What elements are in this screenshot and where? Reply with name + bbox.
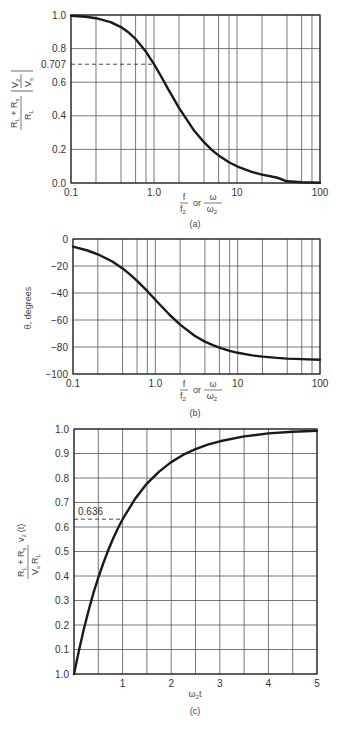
y-tick-label: 0 [62,234,68,245]
chart-c-grid [74,429,317,674]
svg-text:f2: f2 [180,391,187,402]
x-tick-label: 1.0 [148,378,162,389]
x-tick-label: 100 [312,378,329,389]
x-tick-label: 4 [266,678,272,689]
svg-text:or: or [193,198,201,208]
y-tick-label: −40 [51,288,68,299]
x-tick-label: 1 [120,678,126,689]
y-tick-label: 0.3 [55,595,69,606]
x-tick-label: 1.0 [147,187,161,198]
y-tick-label: 0.4 [55,571,69,582]
y-tick-label: −60 [51,315,68,326]
y-tick-label: 0.9 [55,448,69,459]
y-tick-label: 0.6 [52,77,66,88]
x-tick-label: 5 [314,678,320,689]
chart-b-y-ticks: 0−20−40−60−80−100 [45,234,68,380]
y-tick-label: 1.0 [52,10,66,21]
svg-text:ω: ω [209,379,216,389]
svg-text:RL + Rs: RL + Rs [16,547,27,577]
chart-a-x-ticks: 0.11.010100 [64,187,329,198]
x-tick-label: 0.1 [66,378,80,389]
svg-text:RL + Rs: RL + Rs [9,98,20,128]
svg-text:Vs: Vs [23,78,34,87]
chart-a-x-axis-label: f f2 or ω ω2 [180,192,222,215]
y-tick-label: 0.5 [55,546,69,557]
chart-b-x-axis-label: f f2 or ω ω2 [180,379,222,402]
y-tick-label: 0.707 [41,59,66,70]
chart-c-x-ticks: 12345 [120,678,320,689]
svg-text:f: f [183,379,186,389]
svg-text:f2: f2 [180,204,187,215]
chart-b-y-axis-label: θ, degrees [23,286,33,329]
chart-c-y-axis-label: RL + Rs VsRL v2(t) [16,524,41,579]
chart-a-y-axis-label: RL + Rs RL V2 Vs [9,71,34,130]
chart-c-caption: (c) [190,706,201,716]
svg-text:V2: V2 [10,78,21,88]
chart-a-curve [71,16,320,183]
chart-b-curve [73,247,320,360]
y-tick-label: −100 [45,369,68,380]
y-tick-label: 0.6 [55,522,69,533]
svg-text:ω: ω [209,192,216,202]
chart-a-grid [71,15,320,183]
y-tick-label: 0.4 [52,110,66,121]
y-tick-label: −80 [51,342,68,353]
y-tick-label: 0.8 [55,473,69,484]
y-tick-label: −20 [51,261,68,272]
chart-a-frame [71,15,320,183]
svg-text:ω2: ω2 [207,204,218,215]
svg-text:ω2: ω2 [207,391,218,402]
x-tick-label: 100 [312,187,329,198]
y-tick-label: 0.7 [55,497,69,508]
chart-magnitude-response: 1.00.80.7070.60.40.20.0 0.11.010100 RL +… [9,10,329,230]
svg-text:v2(t): v2(t) [16,524,27,542]
svg-text:or: or [193,385,201,395]
chart-c-x-axis-label: ω2t [189,689,202,700]
chart-a-y-ticks: 1.00.80.7070.60.40.20.0 [41,10,66,189]
y-tick-label: 1.0 [55,424,69,435]
chart-phase-response: 0−20−40−60−80−100 0.11.010100 θ, degrees… [23,234,329,419]
chart-step-response: 0.636 1.00.90.80.70.60.50.40.30.20.11.0 … [16,424,320,717]
y-tick-label: 1.0 [55,669,69,680]
x-tick-label: 10 [231,187,243,198]
svg-text:RL: RL [23,110,34,121]
y-tick-label: 0.1 [55,644,69,655]
x-tick-label: 10 [232,378,244,389]
y-tick-label: 0.2 [55,620,69,631]
y-tick-label: 0.2 [52,144,66,155]
chart-a-caption: (a) [190,219,201,229]
x-tick-label: 2 [168,678,174,689]
chart-c-y-ticks: 1.00.90.80.70.60.50.40.30.20.11.0 [55,424,69,680]
y-tick-label: 0.8 [52,43,66,54]
annotation-label: 0.636 [78,506,103,517]
chart-b-caption: (b) [190,408,201,418]
x-tick-label: 0.1 [64,187,78,198]
x-tick-label: 3 [217,678,223,689]
svg-text:f: f [183,192,186,202]
svg-text:VsRL: VsRL [30,553,41,575]
figure-canvas: 1.00.80.7070.60.40.20.0 0.11.010100 RL +… [0,0,338,729]
